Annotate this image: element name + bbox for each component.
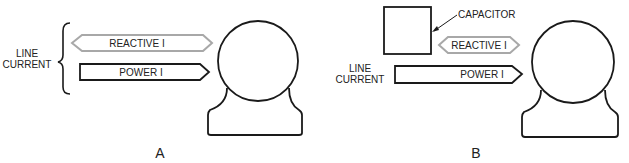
reactive-label-b: REACTIVE I: [451, 40, 507, 51]
capacitor-box: [384, 7, 431, 54]
line-label-a: LINE: [16, 48, 39, 59]
caption-a: A: [155, 145, 165, 161]
panel-a: LINE CURRENT REACTIVE I POWER I A: [3, 21, 302, 161]
reactive-label-a: REACTIVE I: [109, 38, 165, 49]
power-factor-diagram: LINE CURRENT REACTIVE I POWER I A CAPACI…: [0, 0, 629, 163]
line-label-b: LINE: [349, 63, 372, 74]
capacitor-leader-arrowhead: [432, 26, 439, 32]
brace-a: [58, 23, 70, 94]
current-label-b: CURRENT: [336, 74, 385, 85]
caption-b: B: [471, 145, 480, 161]
capacitor-label: CAPACITOR: [458, 9, 515, 20]
motor-b: [522, 21, 618, 137]
panel-b: CAPACITOR REACTIVE I LINE CURRENT POWER …: [336, 7, 618, 161]
power-label-b: POWER I: [460, 69, 503, 80]
power-label-a: POWER I: [119, 67, 162, 78]
motor-a: [208, 21, 302, 135]
current-label-a: CURRENT: [3, 59, 52, 70]
